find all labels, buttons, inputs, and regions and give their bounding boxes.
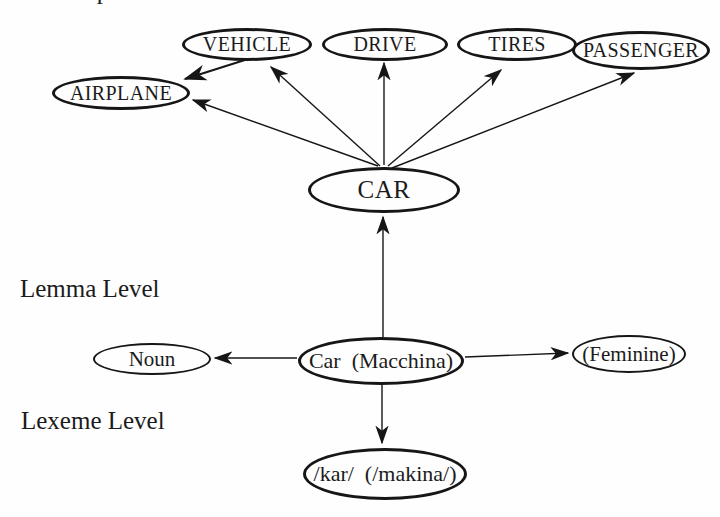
node-kar-makina: /kar/ (/makina/): [303, 448, 467, 500]
arrow-lemma-to-feminine: [465, 353, 568, 357]
node-vehicle-label: VEHICLE: [203, 33, 291, 56]
node-feminine-label: (Feminine): [582, 342, 675, 367]
arrow-car-to-tires: [388, 70, 501, 166]
node-tires: TIRES: [457, 28, 577, 61]
node-passenger: PASSENGER: [572, 31, 710, 70]
node-feminine: (Feminine): [572, 335, 686, 373]
node-car: CAR: [308, 167, 460, 213]
arrow-car-to-airplane: [193, 100, 378, 166]
node-airplane: AIRPLANE: [52, 76, 190, 110]
node-airplane-label: AIRPLANE: [70, 82, 172, 105]
arrow-car-to-vehicle: [271, 67, 380, 166]
node-passenger-label: PASSENGER: [583, 39, 699, 62]
node-noun: Noun: [93, 343, 211, 375]
node-tires-label: TIRES: [488, 33, 546, 56]
node-kar-makina-label: /kar/ (/makina/): [314, 461, 457, 487]
node-vehicle: VEHICLE: [182, 28, 312, 61]
lexeme-level-label: Lexeme Level: [21, 407, 165, 435]
node-car-macchina: Car (Macchina): [298, 337, 464, 385]
diagram-canvas: Conceptual Level AIRPLANE VEHICLE DRIVE: [0, 0, 720, 517]
arrow-car-to-passenger: [392, 73, 634, 168]
node-noun-label: Noun: [129, 347, 176, 372]
lemma-level-label: Lemma Level: [20, 275, 160, 303]
node-drive-label: DRIVE: [353, 33, 416, 56]
node-car-macchina-label: Car (Macchina): [309, 348, 453, 374]
arrow-vehicle-to-airplane: [185, 59, 248, 79]
node-drive: DRIVE: [322, 28, 448, 61]
node-car-label: CAR: [358, 176, 411, 204]
